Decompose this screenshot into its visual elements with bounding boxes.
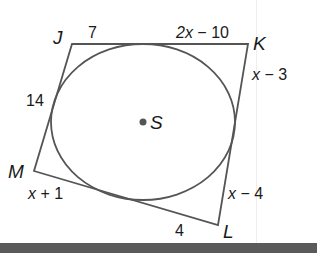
vertex-label-l: L	[223, 221, 234, 242]
segment-label-m-bottom: x + 1	[27, 185, 63, 202]
segment-label-l-right: x − 4	[227, 185, 263, 202]
segment-label-k-top: 2x − 10	[175, 24, 229, 41]
center-point	[140, 119, 147, 126]
quadrilateral-jklm	[34, 44, 248, 225]
vertex-label-m: M	[8, 161, 24, 182]
segment-label-k-right: x − 3	[251, 66, 287, 83]
segment-label-j-left: 14	[26, 92, 44, 109]
vertex-label-j: J	[52, 27, 63, 48]
segment-label-l-bottom: 4	[175, 222, 184, 239]
vertex-label-k: K	[253, 33, 267, 54]
var-x: 2x	[175, 24, 194, 41]
geometry-figure: S J K L M 7 2x − 10 x − 3 14 x + 1 x − 4…	[0, 0, 317, 253]
center-label: S	[150, 112, 163, 133]
segment-label-j-top: 7	[88, 24, 97, 41]
bottom-bar	[0, 243, 317, 253]
